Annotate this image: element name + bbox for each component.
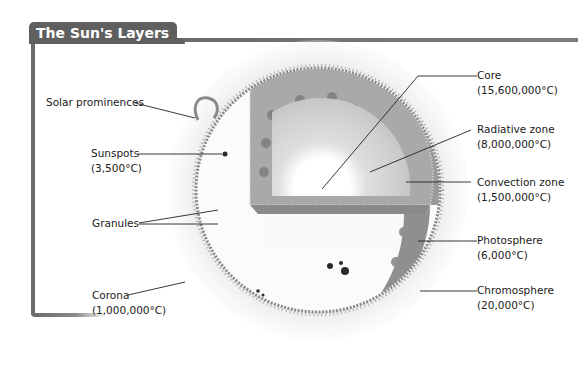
label-sunspots: Sunspots (3,500°C) [91, 146, 142, 176]
label-radiative-zone: Radiative zone (8,000,000°C) [477, 122, 555, 152]
label-core: Core (15,600,000°C) [477, 68, 558, 98]
label-photosphere: Photosphere (6,000°C) [477, 233, 543, 263]
label-solar-prominences: Solar prominences [46, 95, 144, 110]
label-corona: Corona (1,000,000°C) [92, 288, 166, 318]
label-convection-zone: Convection zone (1,500,000°C) [477, 175, 564, 205]
label-chromosphere: Chromosphere (20,000°C) [477, 283, 554, 313]
label-granules: Granules [92, 216, 139, 231]
